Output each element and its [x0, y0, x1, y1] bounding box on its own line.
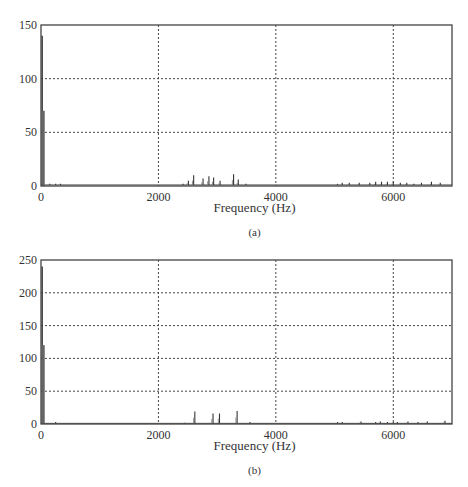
x-axis-label: Frequency (Hz): [214, 438, 296, 453]
svg-text:100: 100: [19, 72, 37, 86]
spectrum-peaks: [42, 36, 440, 186]
svg-text:50: 50: [25, 125, 37, 139]
svg-text:50: 50: [25, 384, 37, 398]
chart-panel-a: 0501001500200040006000Frequency (Hz)(a): [19, 18, 452, 239]
svg-text:6000: 6000: [381, 190, 405, 204]
svg-text:200: 200: [19, 286, 37, 300]
panel-caption: (b): [248, 464, 261, 477]
grid-lines: [41, 260, 452, 424]
svg-text:2000: 2000: [146, 428, 170, 442]
svg-text:0: 0: [38, 428, 44, 442]
y-axis-tick-labels: 050100150: [19, 18, 37, 193]
svg-text:250: 250: [19, 253, 37, 267]
svg-text:2000: 2000: [146, 190, 170, 204]
svg-text:150: 150: [19, 319, 37, 333]
svg-text:6000: 6000: [381, 428, 405, 442]
grid-lines: [41, 25, 452, 186]
x-axis-label: Frequency (Hz): [214, 200, 296, 215]
plot-frame: [41, 25, 452, 186]
svg-text:150: 150: [19, 18, 37, 32]
y-axis-tick-labels: 050100150200250: [19, 253, 37, 431]
chart-panel-b: 0501001502002500200040006000Frequency (H…: [19, 253, 452, 477]
spectrum-peaks: [42, 267, 445, 424]
svg-text:0: 0: [38, 190, 44, 204]
svg-text:0: 0: [31, 179, 37, 193]
svg-text:100: 100: [19, 351, 37, 365]
spectrum-figure: 0501001500200040006000Frequency (Hz)(a) …: [0, 0, 468, 487]
panel-caption: (a): [248, 226, 261, 239]
svg-text:0: 0: [31, 417, 37, 431]
plot-frame: [41, 260, 452, 424]
